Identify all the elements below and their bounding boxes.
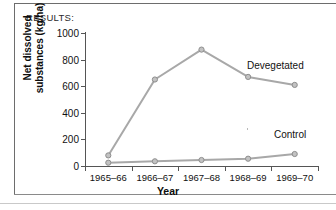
- data-point-control: [199, 157, 204, 162]
- series-label-control: Control: [274, 129, 306, 140]
- data-point-control: [246, 156, 251, 161]
- data-point-devegetated: [246, 74, 251, 79]
- data-point-devegetated: [199, 47, 204, 52]
- data-point-devegetated: [152, 77, 157, 82]
- data-point-control: [106, 160, 111, 165]
- data-point-devegetated: [106, 153, 111, 158]
- series-label-devegetated: Devegetated: [247, 60, 304, 71]
- chart-plot-svg: [0, 0, 336, 210]
- data-point-devegetated: [292, 82, 297, 87]
- results-figure-panel: RESULTS: 02004006008001000 1965–661966–6…: [0, 0, 336, 210]
- data-point-control: [292, 151, 297, 156]
- scan-speck: [247, 128, 248, 130]
- data-point-control: [152, 159, 157, 164]
